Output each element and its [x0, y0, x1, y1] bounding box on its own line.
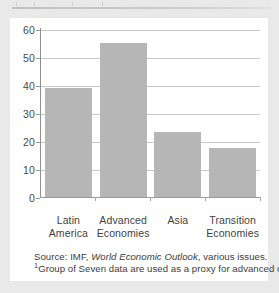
footnote-text: Group of Seven data are used as a proxy … [38, 263, 279, 274]
top-scan-tick-marks [12, 2, 270, 7]
figure-panel: 0102030405060 LatinAmericaAdvancedEconom… [10, 18, 268, 281]
figure-notes: Source: IMF, World Economic Outlook, var… [34, 251, 260, 275]
y-axis-tick-label: 50 [23, 52, 35, 64]
bars-group [41, 30, 260, 197]
x-axis-label-line: Economies [205, 227, 260, 240]
x-axis-label: Asia [151, 214, 206, 239]
x-axis-label-line: America [41, 227, 96, 240]
x-axis-label-line: Asia [151, 214, 206, 227]
y-axis-tick-label: 0 [29, 192, 35, 204]
y-axis-tick-label: 60 [23, 24, 35, 36]
x-axis-label-line: Advanced [96, 214, 151, 227]
plot-area: 0102030405060 [40, 30, 260, 198]
x-axis-tick-mark [95, 197, 96, 201]
x-axis-label-line [151, 227, 206, 240]
source-suffix: , various issues. [198, 251, 268, 262]
source-prefix: Source: IMF, [34, 251, 91, 262]
x-axis-label-line: Economies [96, 227, 151, 240]
bar [100, 43, 147, 197]
x-axis-label-line: Transition [205, 214, 260, 227]
x-axis-tick-mark [205, 197, 206, 201]
footnote-line: 1Group of Seven data are used as a proxy… [34, 263, 260, 275]
scan-tick [34, 2, 35, 6]
bar-slot [205, 30, 260, 197]
x-axis-label: LatinAmerica [41, 214, 96, 239]
scan-tick [16, 2, 17, 6]
bar [209, 148, 256, 197]
scan-tick [102, 2, 103, 6]
x-axis-tick-mark [260, 197, 261, 201]
scan-tick [72, 2, 73, 6]
bar-slot [41, 30, 96, 197]
bar-chart: 0102030405060 [10, 18, 268, 214]
x-axis-labels-group: LatinAmericaAdvancedEconomiesAsia Transi… [41, 214, 260, 239]
bar-slot [96, 30, 151, 197]
x-axis-label: TransitionEconomies [205, 214, 260, 239]
top-scan-rule [12, 7, 270, 9]
y-axis-tick-label: 30 [23, 108, 35, 120]
bar [45, 88, 92, 197]
x-axis-label-line: Latin [41, 214, 96, 227]
source-publication-title: World Economic Outlook [91, 251, 198, 262]
bar-slot [151, 30, 206, 197]
source-line: Source: IMF, World Economic Outlook, var… [34, 251, 260, 263]
y-axis-tick-mark [36, 198, 40, 199]
x-axis-tick-mark [150, 197, 151, 201]
y-axis-tick-label: 20 [23, 136, 35, 148]
x-axis-label: AdvancedEconomies [96, 214, 151, 239]
y-axis-tick-label: 40 [23, 80, 35, 92]
y-axis-tick-label: 10 [23, 164, 35, 176]
bar [154, 132, 201, 197]
